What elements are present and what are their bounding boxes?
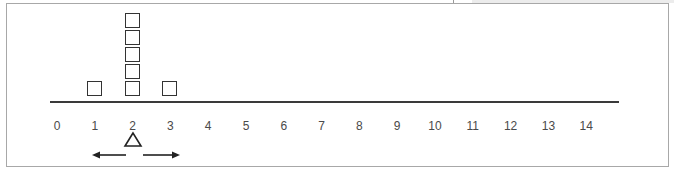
annotation-layer — [0, 0, 674, 175]
balance-triangle-icon — [125, 133, 141, 146]
right-arrow-icon — [143, 152, 180, 159]
left-arrow-icon — [92, 152, 126, 159]
